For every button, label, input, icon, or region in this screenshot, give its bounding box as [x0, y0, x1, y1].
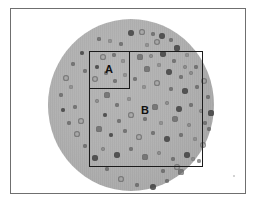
cell [78, 118, 83, 123]
corner-speck [233, 175, 235, 177]
counting-region-b-label: B [141, 105, 149, 116]
cell [74, 131, 79, 136]
cell [154, 39, 160, 45]
counting-region-a-label: A [105, 64, 113, 75]
cell [165, 179, 169, 183]
cell [208, 110, 213, 115]
cell [139, 29, 144, 34]
cell [147, 193, 152, 194]
cell [97, 37, 101, 41]
cell [69, 85, 73, 89]
cell [128, 30, 134, 36]
cell [203, 121, 207, 125]
cell [145, 43, 149, 47]
cell [178, 169, 183, 174]
cell [63, 75, 68, 80]
image-frame: A B [10, 8, 246, 194]
cell [207, 127, 211, 131]
cell [174, 45, 179, 50]
cell [59, 93, 63, 97]
cell [150, 184, 156, 190]
figure-root: A B [0, 0, 256, 204]
cell [118, 176, 123, 181]
cell [80, 51, 84, 55]
